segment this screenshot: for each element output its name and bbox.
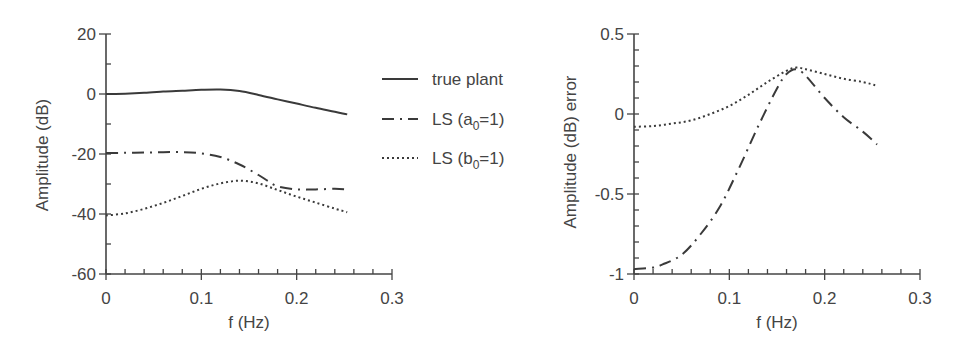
y-tick-label: 0.5 <box>600 25 624 44</box>
x-tick-label: 0 <box>101 289 110 308</box>
legend-label-ls-b0: LS (b0=1) <box>432 149 504 172</box>
series-ls-b0-1 <box>106 181 347 216</box>
x-axis-label: f (Hz) <box>228 313 270 332</box>
y-tick-label: 0 <box>87 85 96 104</box>
amplitude-plot: 00.10.20.3200-20-40-60f (Hz)Amplitude (d… <box>33 25 404 332</box>
y-tick-label: 0 <box>615 105 624 124</box>
series-ls-a0-1 <box>634 69 877 269</box>
y-tick-label: 20 <box>77 25 96 44</box>
figure: 00.10.20.3200-20-40-60f (Hz)Amplitude (d… <box>0 0 957 350</box>
y-axis-label: Amplitude (dB) <box>33 99 52 211</box>
x-tick-label: 0.2 <box>285 289 309 308</box>
series-ls-b0-1 <box>634 68 875 127</box>
legend-label-true-plant: true plant <box>432 70 503 89</box>
amplitude-error-plot: 00.10.20.30.50-0.5-1f (Hz)Amplitude (dB)… <box>561 25 932 332</box>
y-tick-label: -20 <box>71 145 96 164</box>
series-ls-a0-1 <box>106 152 347 190</box>
y-tick-label: -60 <box>71 265 96 284</box>
y-tick-label: -1 <box>609 265 624 284</box>
legend: true plant LS (a0=1) LS (b0=1) <box>382 70 504 172</box>
series-true-plant <box>106 89 347 114</box>
x-tick-label: 0 <box>629 289 638 308</box>
x-tick-label: 0.1 <box>190 289 214 308</box>
x-tick-label: 0.3 <box>908 289 932 308</box>
x-axis-label: f (Hz) <box>756 313 798 332</box>
y-axis-label: Amplitude (dB) error <box>561 75 580 228</box>
legend-label-ls-a0: LS (a0=1) <box>432 110 504 133</box>
x-tick-label: 0.3 <box>380 289 404 308</box>
y-tick-label: -40 <box>71 205 96 224</box>
x-tick-label: 0.1 <box>718 289 742 308</box>
y-tick-label: -0.5 <box>595 185 624 204</box>
x-tick-label: 0.2 <box>813 289 837 308</box>
